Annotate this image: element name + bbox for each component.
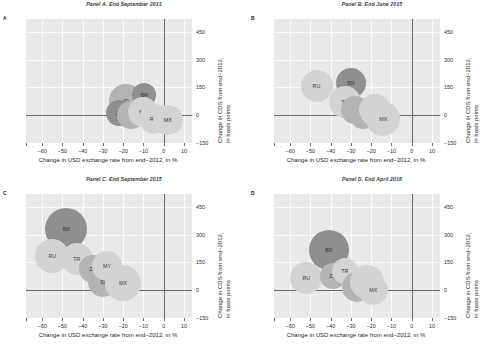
- y-tick-label: −150: [196, 140, 208, 146]
- gridline-vertical: [432, 19, 433, 143]
- bubble-mx[interactable]: MX: [153, 105, 183, 135]
- bubble-label: MY: [103, 263, 111, 269]
- x-tick-label: −30: [346, 323, 355, 329]
- x-tick-mark: [432, 318, 433, 321]
- x-tick-mark: [331, 318, 332, 321]
- panel-c-plot-area: BRRUTRZAIDMYMX: [26, 194, 192, 318]
- y-tick-label: 300: [444, 57, 453, 63]
- bubble-ru[interactable]: RU: [290, 262, 322, 294]
- gridline-horizontal: [274, 207, 440, 208]
- x-tick-label: −20: [119, 148, 128, 154]
- panel-d-letter: D: [251, 190, 255, 196]
- x-tick-label: −30: [346, 148, 355, 154]
- gridline-vertical: [42, 19, 43, 143]
- x-tick-mark: [143, 143, 144, 146]
- x-tick-mark: [164, 143, 165, 146]
- gridline-vertical: [83, 19, 84, 143]
- y-tick-label: 300: [444, 232, 453, 238]
- gridline-vertical: [290, 194, 291, 318]
- x-tick-label: −50: [306, 323, 315, 329]
- x-tick-mark: [123, 318, 124, 321]
- x-tick-label: −20: [367, 323, 376, 329]
- bubble-label: RU: [302, 275, 310, 281]
- y-axis-label-line1: Change in CDS from end−2012,: [465, 232, 471, 318]
- x-tick-label: −20: [367, 148, 376, 154]
- gridline-horizontal: [274, 235, 440, 236]
- bubble-label: BR: [325, 247, 333, 253]
- y-tick-label: 150: [196, 84, 205, 90]
- y-axis-label-line2: in basis points: [225, 105, 231, 143]
- x-tick-mark: [83, 143, 84, 146]
- panel-a: Panel A. End September 2013 A IDBRZATRMY…: [0, 0, 248, 175]
- x-tick-label: −30: [98, 148, 107, 154]
- gridline-horizontal: [26, 207, 192, 208]
- panel-b: Panel B. End June 2015 B RUBRTRZAIDMYMX …: [248, 0, 496, 175]
- y-tick-label: 150: [444, 84, 453, 90]
- panel-a-plot-area: IDBRZATRMYRUMX: [26, 19, 192, 143]
- x-tick-label: −60: [286, 323, 295, 329]
- gridline-vertical: [391, 194, 392, 318]
- gridline-horizontal: [274, 60, 440, 61]
- x-tick-label: −60: [38, 323, 47, 329]
- x-tick-mark: [62, 143, 63, 146]
- gridline-vertical: [143, 194, 144, 318]
- panel-d-title: Panel D. End April 2016: [248, 176, 496, 182]
- x-tick-mark: [184, 318, 185, 321]
- x-tick-mark: [371, 318, 372, 321]
- panel-a-y-axis-label: Change in CDS from end−2012, in basis po…: [214, 19, 240, 143]
- x-tick-label: −40: [326, 148, 335, 154]
- bubble-ru[interactable]: RU: [301, 70, 333, 102]
- bubble-mx[interactable]: MX: [105, 265, 141, 301]
- y-tick-label: −150: [444, 140, 456, 146]
- x-tick-mark: [62, 318, 63, 321]
- bubble-label: TR: [73, 256, 80, 262]
- x-tick-mark: [83, 318, 84, 321]
- bubble-label: MX: [119, 280, 127, 286]
- bubble-label: MX: [379, 116, 387, 122]
- zero-line-vertical: [164, 194, 165, 318]
- x-tick-mark: [391, 143, 392, 146]
- panel-b-x-axis-label: Change in USD exchange rate from end−201…: [248, 157, 464, 163]
- x-tick-label: 10: [181, 323, 187, 329]
- panel-b-plot-area: RUBRTRZAIDMYMX: [274, 19, 440, 143]
- gridline-horizontal: [274, 32, 440, 33]
- x-tick-mark: [164, 318, 165, 321]
- x-tick-mark: [290, 318, 291, 321]
- panel-c-letter: C: [3, 190, 7, 196]
- x-tick-mark: [331, 143, 332, 146]
- y-axis-label-line2: in basis points: [473, 105, 479, 143]
- y-tick-label: 450: [444, 204, 453, 210]
- x-tick-label: −10: [139, 148, 148, 154]
- x-tick-mark: [42, 143, 43, 146]
- y-tick-label: 0: [196, 287, 199, 293]
- x-tick-mark: [184, 143, 185, 146]
- panel-a-title: Panel A. End September 2013: [0, 1, 248, 7]
- y-tick-label: −150: [196, 315, 208, 321]
- x-tick-label: 0: [410, 148, 413, 154]
- x-tick-mark: [351, 143, 352, 146]
- panel-b-letter: B: [251, 15, 255, 21]
- x-tick-label: −10: [387, 323, 396, 329]
- x-tick-label: −60: [38, 148, 47, 154]
- y-tick-label: 450: [444, 29, 453, 35]
- bubble-mx[interactable]: MX: [358, 275, 388, 305]
- x-tick-label: −10: [387, 148, 396, 154]
- gridline-vertical: [432, 194, 433, 318]
- gridline-vertical: [103, 19, 104, 143]
- x-tick-mark: [412, 318, 413, 321]
- x-tick-label: −60: [286, 148, 295, 154]
- x-tick-mark: [310, 143, 311, 146]
- y-tick-label: 150: [444, 259, 453, 265]
- x-tick-mark: [412, 143, 413, 146]
- x-tick-label: 0: [162, 323, 165, 329]
- x-tick-label: −10: [139, 323, 148, 329]
- bubble-label: MX: [164, 117, 172, 123]
- x-tick-mark: [42, 318, 43, 321]
- panel-b-title: Panel B. End June 2015: [248, 1, 496, 7]
- gridline-horizontal: [26, 60, 192, 61]
- y-axis-label-line2: in basis points: [225, 280, 231, 318]
- x-tick-label: −30: [98, 323, 107, 329]
- bubble-mx[interactable]: MX: [366, 102, 400, 136]
- y-tick-label: 0: [444, 112, 447, 118]
- x-tick-label: −20: [119, 323, 128, 329]
